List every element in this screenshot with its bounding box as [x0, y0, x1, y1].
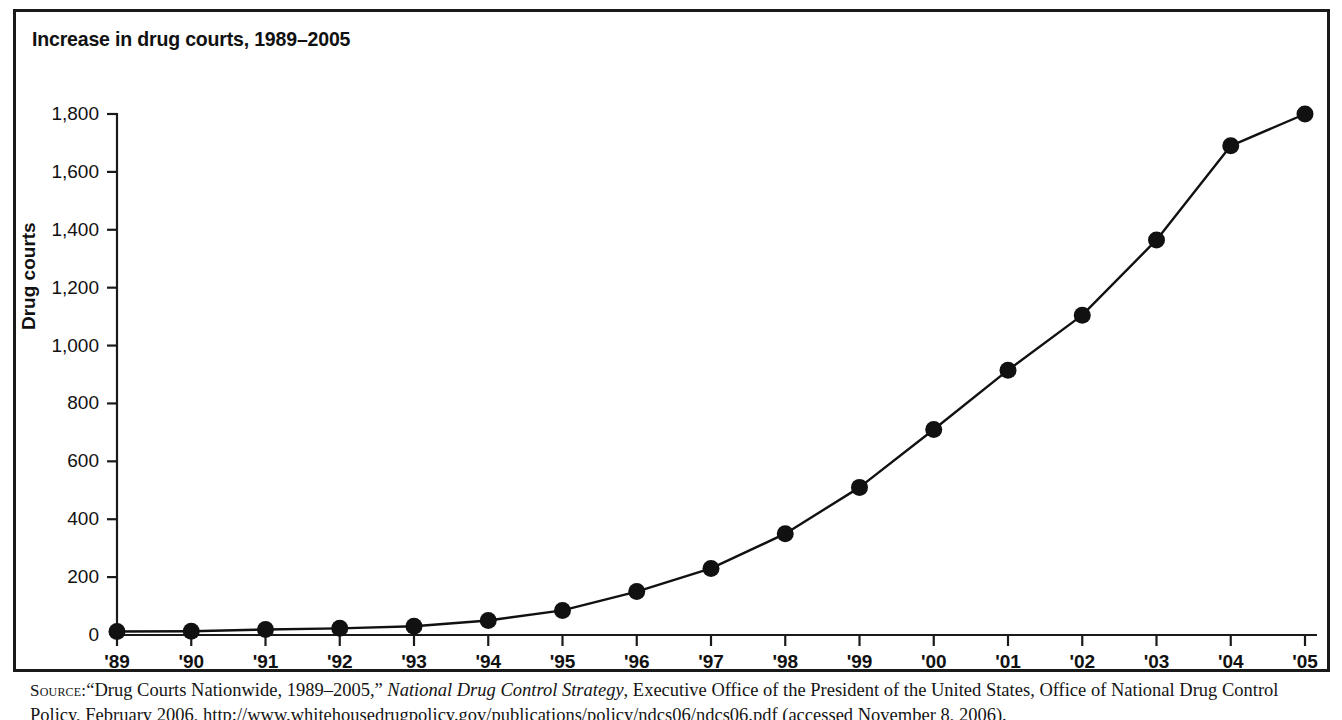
- source-publication-title: National Drug Control Strategy: [387, 680, 623, 700]
- source-kicker: Source:: [30, 681, 86, 700]
- chart-panel-border: [13, 9, 1330, 672]
- chart-title: Increase in drug courts, 1989–2005: [32, 27, 350, 51]
- y-axis-title: Drug courts: [18, 222, 40, 330]
- chart-figure: Increase in drug courts, 1989–2005 Drug …: [0, 0, 1342, 720]
- source-line1-part2: , Executive Office of the President of t…: [624, 680, 1175, 700]
- source-note: Source:“Drug Courts Nationwide, 1989–200…: [30, 678, 1330, 720]
- source-line1-part1: “Drug Courts Nationwide, 1989–2005,”: [86, 680, 387, 700]
